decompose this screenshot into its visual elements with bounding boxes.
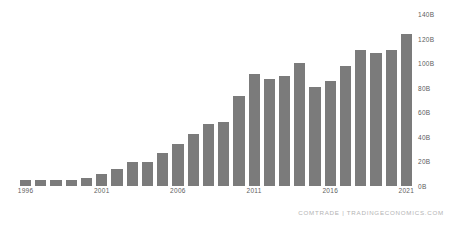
- bar-cell[interactable]: [368, 14, 383, 186]
- x-axis-tick-label: 2016: [322, 187, 338, 194]
- bar[interactable]: [50, 180, 61, 186]
- plot-area: [18, 14, 414, 186]
- x-axis-tick-label: 2011: [246, 187, 261, 194]
- bar-cell[interactable]: [94, 14, 109, 186]
- bar-cell[interactable]: [48, 14, 63, 186]
- bar-cell[interactable]: [64, 14, 79, 186]
- bar[interactable]: [96, 174, 107, 186]
- chart-source-credit: COMTRADE | TRADINGECONOMICS.COM: [298, 209, 444, 216]
- x-axis-tick-label: 2021: [399, 187, 415, 194]
- bar-cell[interactable]: [216, 14, 231, 186]
- bar-cell[interactable]: [307, 14, 322, 186]
- bar-cell[interactable]: [186, 14, 201, 186]
- bar-cell[interactable]: [33, 14, 48, 186]
- bar[interactable]: [309, 87, 320, 186]
- bar-cell[interactable]: [292, 14, 307, 186]
- bar[interactable]: [20, 180, 31, 186]
- bar-cell[interactable]: [323, 14, 338, 186]
- bar[interactable]: [233, 96, 244, 186]
- bar[interactable]: [355, 50, 366, 186]
- bar[interactable]: [294, 63, 305, 186]
- y-axis-tick-label: 40B: [418, 133, 452, 140]
- bar[interactable]: [35, 180, 46, 186]
- bar[interactable]: [111, 169, 122, 186]
- bar[interactable]: [172, 144, 183, 186]
- bar[interactable]: [81, 178, 92, 186]
- bar-cell[interactable]: [109, 14, 124, 186]
- bar[interactable]: [188, 134, 199, 186]
- y-axis-tick-label: 80B: [418, 84, 452, 91]
- bar[interactable]: [340, 66, 351, 186]
- bar[interactable]: [157, 153, 168, 186]
- bar[interactable]: [279, 76, 290, 186]
- bar[interactable]: [249, 74, 260, 186]
- bar-cell[interactable]: [384, 14, 399, 186]
- bar[interactable]: [325, 81, 336, 186]
- bar-cell[interactable]: [338, 14, 353, 186]
- bar[interactable]: [142, 162, 153, 186]
- bar-cell[interactable]: [231, 14, 246, 186]
- y-axis-tick-label: 120B: [418, 35, 452, 42]
- bar-chart: 140B120B100B80B60B40B20B0B 1996200120062…: [0, 0, 454, 234]
- bar-cell[interactable]: [170, 14, 185, 186]
- bar-cell[interactable]: [18, 14, 33, 186]
- bar-cell[interactable]: [247, 14, 262, 186]
- bar[interactable]: [401, 34, 412, 186]
- bar-cell[interactable]: [353, 14, 368, 186]
- y-axis-tick-label: 60B: [418, 109, 452, 116]
- y-axis-tick-label: 140B: [418, 11, 452, 18]
- bar-cell[interactable]: [125, 14, 140, 186]
- bar[interactable]: [218, 122, 229, 187]
- bar-cell[interactable]: [277, 14, 292, 186]
- bar-cell[interactable]: [399, 14, 414, 186]
- bar-cell[interactable]: [140, 14, 155, 186]
- bar[interactable]: [203, 124, 214, 186]
- bar-cell[interactable]: [155, 14, 170, 186]
- bar-series: [18, 14, 414, 186]
- x-axis-tick-label: 2006: [170, 187, 186, 194]
- bar-cell[interactable]: [201, 14, 216, 186]
- x-axis-tick-label: 2001: [94, 187, 110, 194]
- x-axis: 199620012006201120162021: [18, 187, 414, 201]
- bar[interactable]: [66, 180, 77, 186]
- bar[interactable]: [264, 79, 275, 187]
- x-axis-tick-label: 1996: [18, 187, 34, 194]
- bar-cell[interactable]: [79, 14, 94, 186]
- y-axis-tick-label: 0B: [418, 183, 452, 190]
- bar[interactable]: [370, 53, 381, 186]
- y-axis-tick-label: 100B: [418, 60, 452, 67]
- bar[interactable]: [386, 50, 397, 186]
- y-axis-tick-label: 20B: [418, 158, 452, 165]
- y-axis: 140B120B100B80B60B40B20B0B: [418, 0, 454, 234]
- bar-cell[interactable]: [262, 14, 277, 186]
- bar[interactable]: [127, 162, 138, 186]
